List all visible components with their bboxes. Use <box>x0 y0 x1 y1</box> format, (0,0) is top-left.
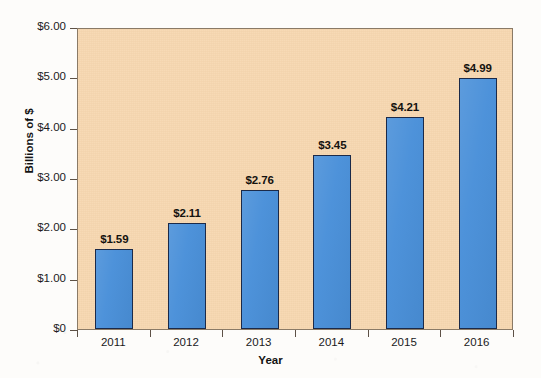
bar-slot: $4.21 <box>369 29 442 329</box>
bar-value-label: $1.59 <box>100 233 128 245</box>
y-tick-label: $3.00 <box>0 171 66 183</box>
y-tick-mark <box>70 280 77 281</box>
y-tick-mark <box>70 28 77 29</box>
bar-value-label: $3.45 <box>318 139 346 151</box>
y-tick-mark <box>70 229 77 230</box>
y-tick-mark <box>70 330 77 331</box>
bar[interactable] <box>95 249 133 329</box>
bar-slot: $4.99 <box>441 29 514 329</box>
bar-slot: $2.76 <box>223 29 296 329</box>
x-tick-label: 2016 <box>447 336 507 348</box>
x-tick-label: 2011 <box>83 336 143 348</box>
bar-value-label: $2.11 <box>173 207 201 219</box>
y-tick-mark <box>70 78 77 79</box>
bar-value-label: $2.76 <box>246 174 274 186</box>
x-axis-title: Year <box>0 354 541 366</box>
bar[interactable] <box>386 117 424 329</box>
y-tick-mark <box>70 179 77 180</box>
bar-slot: $3.45 <box>296 29 369 329</box>
x-tick-mark <box>440 330 441 337</box>
plot-area: $1.59$2.11$2.76$3.45$4.21$4.99 <box>77 28 513 330</box>
bar[interactable] <box>313 155 351 329</box>
x-tick-label: 2015 <box>374 336 434 348</box>
y-tick-mark <box>70 129 77 130</box>
bar-value-label: $4.21 <box>391 101 419 113</box>
y-tick-label: $2.00 <box>0 221 66 233</box>
y-tick-label: $0 <box>0 322 66 334</box>
x-tick-label: 2014 <box>301 336 361 348</box>
y-tick-label: $4.00 <box>0 121 66 133</box>
bar[interactable] <box>459 78 497 329</box>
bar[interactable] <box>168 223 206 329</box>
y-tick-label: $1.00 <box>0 272 66 284</box>
y-tick-label: $5.00 <box>0 70 66 82</box>
bar-chart-figure: Billions of $ $0$1.00$2.00$3.00$4.00$5.0… <box>0 0 541 378</box>
x-tick-mark <box>513 330 514 337</box>
x-tick-mark <box>150 330 151 337</box>
bar-slot: $1.59 <box>78 29 151 329</box>
bar[interactable] <box>241 190 279 329</box>
y-tick-label: $6.00 <box>0 20 66 32</box>
x-tick-mark <box>77 330 78 337</box>
bar-slot: $2.11 <box>151 29 224 329</box>
x-tick-mark <box>295 330 296 337</box>
x-tick-label: 2012 <box>156 336 216 348</box>
x-tick-mark <box>222 330 223 337</box>
x-tick-label: 2013 <box>229 336 289 348</box>
x-tick-mark <box>368 330 369 337</box>
bar-value-label: $4.99 <box>464 62 492 74</box>
